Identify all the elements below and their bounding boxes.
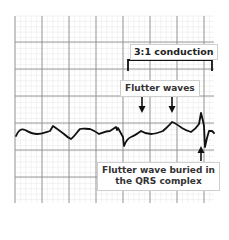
buried-label-line-1: Flutter wave buried in [102,165,215,176]
ecg-trace [16,113,214,147]
flutter-arrow-2 [169,97,176,113]
buried-flutter-wave-label: Flutter wave buried in the QRS complex [97,162,220,191]
buried-label-line-2: the QRS complex [102,176,215,187]
conduction-ratio-label: 3:1 conduction [130,44,218,60]
flutter-waves-label: Flutter waves [120,80,200,97]
